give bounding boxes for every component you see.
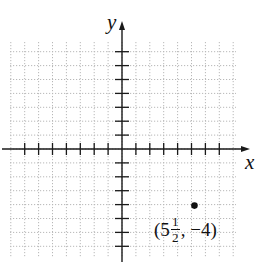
y-axis-arrow-icon (119, 21, 125, 30)
fraction-denominator: 2 (172, 231, 179, 244)
coordinate-plane (0, 0, 258, 263)
point-label-fraction: 1 2 (171, 215, 180, 244)
fraction-numerator: 1 (172, 215, 179, 228)
data-point (191, 202, 198, 209)
x-axis-label: x (245, 152, 254, 173)
point-label: (5 1 2 , −4) (154, 215, 217, 244)
point-label-close: , −4) (181, 220, 217, 239)
point-label-open: (5 (154, 220, 170, 239)
y-axis-label: y (107, 12, 116, 33)
